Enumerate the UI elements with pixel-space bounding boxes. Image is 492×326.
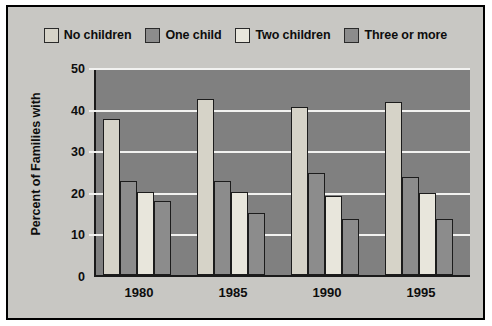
bar: [342, 219, 359, 275]
bar: [248, 213, 265, 275]
bar: [137, 192, 154, 275]
bar: [291, 107, 308, 275]
bar: [154, 201, 171, 275]
y-tick-label: 20: [71, 187, 85, 201]
y-tick-label: 0: [78, 270, 85, 284]
legend-swatch-icon: [235, 28, 250, 43]
legend-label: No children: [64, 28, 132, 42]
plot-area: 010203040501980198519901995: [94, 69, 470, 277]
y-tick-mark: [89, 234, 96, 236]
y-tick-label: 50: [71, 62, 85, 76]
bar: [385, 102, 402, 275]
legend-label: Two children: [255, 28, 330, 42]
y-tick-label: 10: [71, 228, 85, 242]
x-tick-label: 1990: [313, 285, 342, 300]
y-tick-mark: [89, 151, 96, 153]
legend-item[interactable]: Three or more: [344, 28, 447, 43]
bar: [436, 219, 453, 275]
bar: [325, 196, 342, 275]
y-tick-label: 40: [71, 104, 85, 118]
y-axis-title: Percent of Families with: [29, 64, 43, 264]
legend-item[interactable]: One child: [145, 28, 221, 43]
legend-swatch-icon: [44, 28, 59, 43]
bar: [120, 181, 137, 275]
bar: [402, 177, 419, 275]
bar: [308, 173, 325, 275]
x-tick-label: 1985: [219, 285, 248, 300]
legend-swatch-icon: [145, 28, 160, 43]
chart-figure: No childrenOne childTwo childrenThree or…: [0, 0, 492, 326]
gridline: [96, 151, 470, 153]
legend-item[interactable]: Two children: [235, 28, 330, 43]
y-tick-mark: [89, 193, 96, 195]
legend-item[interactable]: No children: [44, 28, 132, 43]
x-tick-label: 1980: [125, 285, 154, 300]
bar: [197, 99, 214, 275]
y-tick-label: 30: [71, 145, 85, 159]
gridline: [96, 110, 470, 112]
chart-frame: No childrenOne childTwo childrenThree or…: [6, 5, 485, 320]
x-tick-label: 1995: [407, 285, 436, 300]
y-tick-mark: [89, 110, 96, 112]
legend-swatch-icon: [344, 28, 359, 43]
legend-label: One child: [165, 28, 221, 42]
bar: [419, 193, 436, 275]
gridline: [96, 68, 470, 70]
legend-label: Three or more: [364, 28, 447, 42]
chart-legend: No childrenOne childTwo childrenThree or…: [18, 20, 473, 50]
y-tick-mark: [89, 68, 96, 70]
bar: [231, 192, 248, 275]
bar: [214, 181, 231, 275]
bar: [103, 119, 120, 275]
